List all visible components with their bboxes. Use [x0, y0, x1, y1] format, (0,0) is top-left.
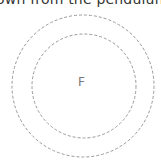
center-label: F — [78, 75, 85, 89]
